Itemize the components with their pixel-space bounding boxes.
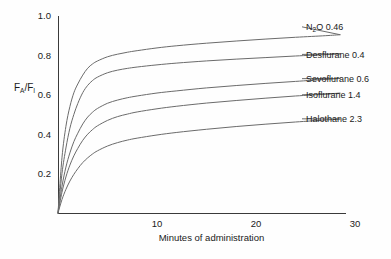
- series-label: Halothane 2.3: [306, 114, 362, 124]
- series-label: Sevoflurane 0.6: [306, 74, 369, 84]
- line-chart: 0.20.40.60.81.0 102030 N2O 0.46Desfluran…: [0, 0, 391, 259]
- series-curve: [58, 78, 340, 213]
- series-curve: [58, 93, 340, 213]
- x-tick-label: 30: [350, 218, 361, 229]
- y-tick-label: 0.4: [38, 129, 51, 140]
- axis-titles: Minutes of administrationFA/FI: [14, 82, 264, 243]
- series-curve: [58, 54, 340, 213]
- series-labels: N2O 0.46Desflurane 0.4Sevoflurane 0.6Iso…: [306, 22, 369, 124]
- x-axis-tick-labels: 102030: [152, 218, 361, 229]
- series-curve: [58, 119, 340, 213]
- y-axis-tick-labels: 0.20.40.60.81.0: [38, 10, 51, 179]
- x-tick-label: 20: [251, 218, 262, 229]
- chart-container: 0.20.40.60.81.0 102030 N2O 0.46Desfluran…: [0, 0, 391, 259]
- chart-axes: [58, 16, 346, 213]
- y-tick-label: 1.0: [38, 10, 51, 21]
- series-label: N2O 0.46: [306, 22, 343, 33]
- y-tick-label: 0.2: [38, 168, 51, 179]
- y-tick-label: 0.6: [38, 89, 51, 100]
- series-label: Isoflurane 1.4: [306, 90, 361, 100]
- y-axis-title: FA/FI: [14, 82, 35, 94]
- y-tick-label: 0.8: [38, 50, 51, 61]
- series-label: Desflurane 0.4: [306, 50, 365, 60]
- x-axis-title: Minutes of administration: [159, 232, 265, 243]
- chart-curves: [58, 35, 340, 213]
- x-tick-label: 10: [152, 218, 163, 229]
